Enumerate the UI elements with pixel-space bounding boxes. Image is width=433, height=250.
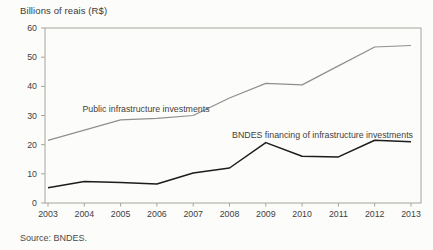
series-label-public-investments: Public infrastructure investments [82, 104, 210, 114]
chart-figure: Billions of reais (R$) 01020304050602003… [0, 0, 433, 250]
x-axis-tick-label: 2012 [365, 209, 385, 219]
y-axis-tick-label: 0 [32, 198, 37, 208]
chart-source: Source: BNDES. [20, 233, 87, 243]
x-axis-tick-label: 2008 [220, 209, 240, 219]
y-axis-tick-label: 40 [27, 81, 37, 91]
series-line-public-investments [48, 46, 411, 141]
plot-frame [45, 28, 421, 203]
x-axis-tick-label: 2006 [147, 209, 167, 219]
series-label-bndes-financing: BNDES financing of infrastructure invest… [232, 130, 414, 140]
series-line-bndes-financing [48, 140, 411, 188]
x-axis-tick-label: 2005 [111, 209, 131, 219]
x-axis-tick-label: 2003 [38, 209, 58, 219]
x-axis-tick-label: 2007 [183, 209, 203, 219]
y-axis-tick-label: 60 [27, 23, 37, 33]
x-axis-tick-label: 2009 [256, 209, 276, 219]
x-axis-tick-label: 2010 [292, 209, 312, 219]
y-axis-tick-label: 10 [27, 169, 37, 179]
x-axis-tick-label: 2013 [401, 209, 421, 219]
y-axis-tick-label: 30 [27, 111, 37, 121]
line-chart: 0102030405060200320042005200620072008200… [0, 0, 433, 250]
x-axis-tick-label: 2011 [329, 209, 348, 219]
y-axis-tick-label: 50 [27, 52, 37, 62]
x-axis-tick-label: 2004 [75, 209, 95, 219]
y-axis-tick-label: 20 [27, 140, 37, 150]
